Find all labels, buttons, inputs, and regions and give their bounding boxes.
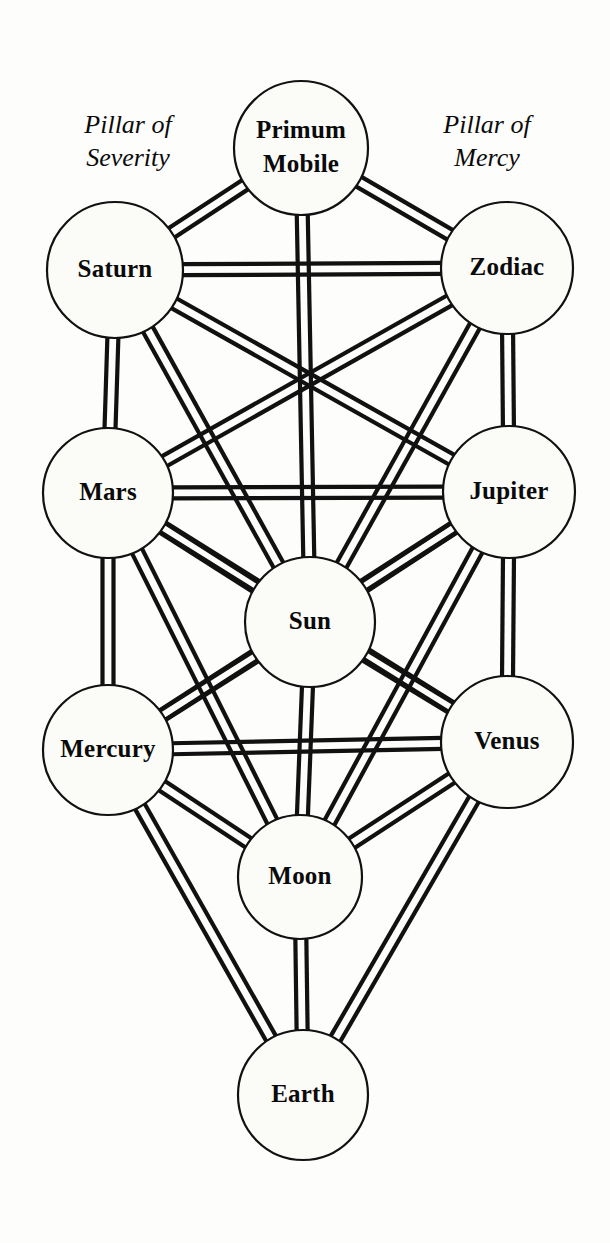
edge-jupiter-sun [360,522,459,592]
node-label-venus: Venus [474,727,539,754]
node-label-jupiter: Jupiter [469,477,548,504]
edge-mars-mercury [103,556,114,687]
node-label-primum-mobile-line2: Mobile [263,150,339,177]
node-label-primum-mobile-line1: Primum [256,116,346,143]
node-moon[interactable]: Moon [238,815,362,939]
edge-stroke [513,556,514,678]
edge-mercury-moon [157,780,253,849]
edge-stroke [171,749,443,754]
edge-mars-jupiter [171,487,445,499]
pillar-mercy-label-line2: Mercy [453,143,520,172]
edge-stroke [171,738,443,743]
edge-stroke [339,800,480,1043]
node-venus[interactable]: Venus [441,676,573,808]
node-label-earth: Earth [271,1080,335,1107]
edge-stroke [167,179,244,229]
node-jupiter[interactable]: Jupiter [443,426,575,558]
tree-of-life-svg: PrimumMobileSaturnZodiacMarsJupiterSunMe… [0,0,610,1243]
node-label-saturn: Saturn [78,255,153,282]
edge-stroke [502,332,503,428]
edge-stroke [115,336,118,431]
edge-stroke [175,297,456,455]
edge-stroke [181,274,443,275]
edge-stroke [173,188,250,238]
edge-stroke [360,176,455,231]
node-label-moon: Moon [268,862,331,889]
node-sun[interactable]: Sun [245,557,375,687]
edge-venus-moon [347,772,457,849]
edge-stroke [502,556,503,678]
edge-stroke [295,937,296,1032]
edge-stroke [163,780,253,839]
node-saturn[interactable]: Saturn [47,202,183,338]
pillar-severity-label-line1: Pillar of [83,110,175,139]
edge-mars-sun [158,522,260,593]
edge-mercury-venus [171,738,444,754]
edge-venus-earth [330,794,480,1043]
pillar-severity-label: Pillar ofSeverity [83,110,175,172]
node-circle-primum-mobile[interactable] [234,81,368,215]
node-label-mars: Mars [79,478,137,505]
node-label-zodiac: Zodiac [470,253,545,280]
pillar-severity-label-line2: Severity [86,143,170,172]
node-label-mercury: Mercury [60,735,156,762]
edge-stroke [157,789,247,848]
node-earth[interactable]: Earth [238,1030,368,1160]
edge-stroke [513,332,514,428]
node-primum-mobile[interactable]: PrimumMobile [234,81,368,215]
edge-stroke [306,937,307,1032]
edge-stroke [171,498,445,499]
edge-stroke [181,263,443,264]
edge-jupiter-venus [502,556,514,679]
edge-stroke [104,336,107,431]
pillar-mercy-label: Pillar ofMercy [442,110,534,172]
node-label-sun: Sun [289,607,331,634]
edge-stroke [171,487,445,488]
edge-sun-venus [361,650,456,714]
pillar-mercy-label-line1: Pillar of [442,110,534,139]
node-zodiac[interactable]: Zodiac [441,202,573,334]
node-mars[interactable]: Mars [43,428,173,558]
tree-of-life-diagram: PrimumMobileSaturnZodiacMarsJupiterSunMe… [0,0,610,1243]
edge-stroke [347,772,451,840]
edge-primum-mobile-saturn [167,179,250,239]
edge-stroke [160,295,449,458]
edge-stroke [330,794,471,1037]
edge-stroke [354,185,449,240]
edge-stroke [353,781,457,849]
edge-moon-earth [295,937,307,1033]
edge-zodiac-jupiter [502,332,514,429]
edge-primum-mobile-zodiac [354,176,454,241]
edge-saturn-mars [104,336,118,431]
node-mercury[interactable]: Mercury [43,685,173,815]
edge-saturn-zodiac [181,263,444,275]
